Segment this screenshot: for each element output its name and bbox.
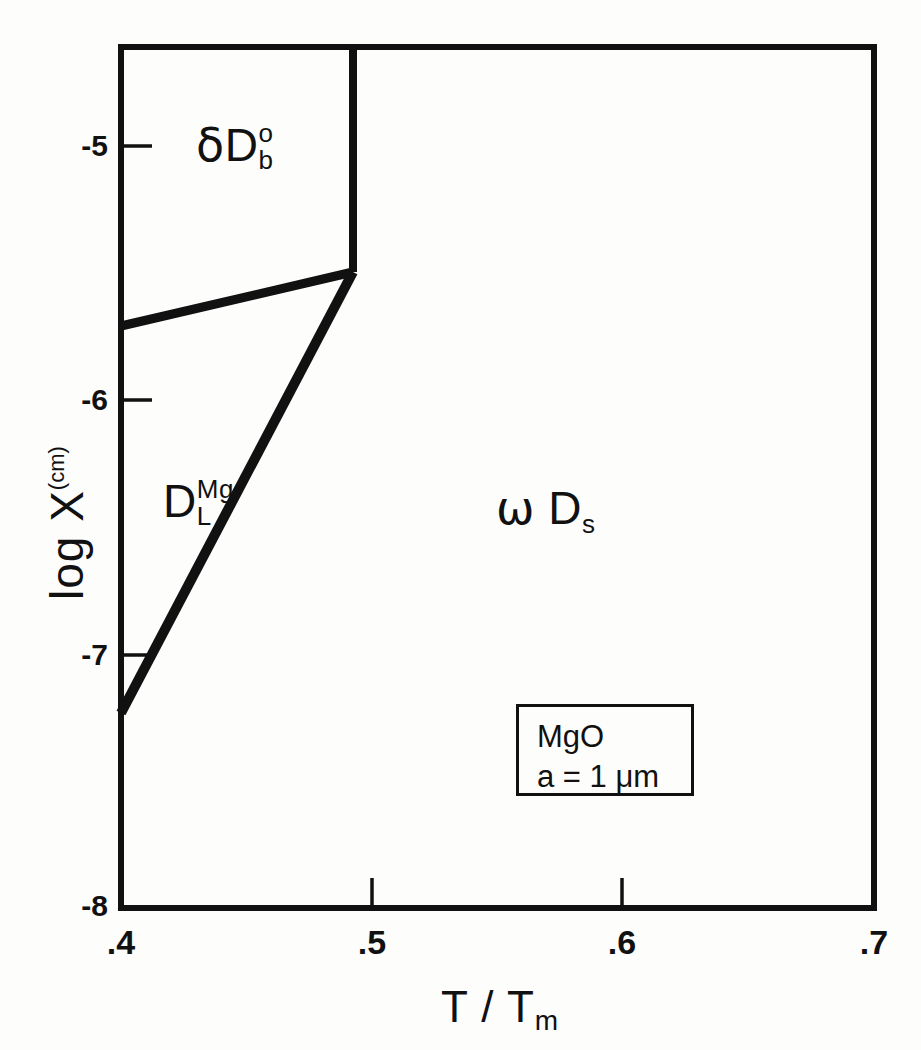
figure-canvas: -5 -6 -7 -8 .4 .5 .6 .7 T / Tm log X(cm)… [0, 0, 921, 1050]
delta-symbol: δ [196, 118, 225, 172]
region-base-D-surface: D [548, 482, 582, 534]
info-box-material: MgO [537, 719, 604, 755]
region-superscript-o: o [258, 120, 273, 147]
x-axis-title-sub: m [535, 1005, 559, 1036]
y-axis-title: log X(cm) [44, 446, 90, 600]
region-subscript-L: L [197, 503, 234, 530]
y-axis-ticks [121, 146, 152, 655]
region-subscript-b: b [258, 147, 273, 174]
region-base-D-lattice: D [163, 475, 197, 527]
boundary-lower-branch [121, 272, 353, 713]
y-tick-label--7: -7 [48, 640, 108, 670]
y-tick-label--5: -5 [48, 131, 108, 161]
x-axis-ticks [372, 878, 622, 908]
y-tick-label--6: -6 [48, 385, 108, 415]
x-tick-label-.5: .5 [358, 925, 386, 959]
x-tick-label-.7: .7 [860, 925, 888, 959]
x-tick-label-.4: .4 [107, 925, 135, 959]
y-tick-label--8: -8 [48, 891, 108, 921]
region-subscript-s: s [582, 509, 596, 539]
region-label-surface: ω Ds [496, 485, 596, 537]
region-label-lattice: DMgL [163, 478, 234, 533]
x-axis-title-main: T / T [441, 982, 535, 1031]
omega-symbol: ω [496, 481, 535, 535]
plot-area [0, 0, 921, 1050]
boundary-upper-branch [121, 272, 353, 326]
region-superscript-Mg: Mg [197, 476, 234, 503]
x-axis-title: T / Tm [441, 985, 559, 1035]
y-axis-title-unit: (cm) [44, 446, 69, 490]
material-info-box: MgO a = 1 μm [516, 704, 694, 796]
region-script-group-lattice: MgL [197, 476, 234, 531]
info-box-grain-size: a = 1 μm [537, 759, 659, 795]
region-script-group-boundary: ob [258, 120, 273, 175]
region-label-grain-boundary: δDob [196, 122, 273, 177]
y-axis-title-main: log X [41, 490, 93, 600]
region-base-D-boundary: D [225, 119, 259, 171]
x-tick-label-.6: .6 [608, 925, 636, 959]
